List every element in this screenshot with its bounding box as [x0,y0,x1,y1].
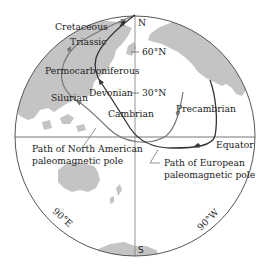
australia-landmass [58,162,100,192]
north-pole-label: N [138,17,146,28]
meridian-90w-label: 90°W [195,206,221,232]
island-small-2 [76,124,86,132]
period-label-cambrian: Cambrian [108,108,154,119]
north-america-landmass [148,18,250,96]
period-label-permocarboniferous: Permocarboniferous [45,65,140,76]
european-path-label-line2: paleomagnetic pole [164,169,255,180]
south-pole-label: S [138,245,144,255]
north-american-path-label-line2: paleomagnetic pole [32,155,123,166]
latitude-30n-label: 30°N [142,87,166,98]
european-arrow-2 [100,81,102,84]
latitude-60n-label: 60°N [142,46,166,57]
european-path-label-line1: Path of European [164,157,245,168]
period-label-silurian: Silurian [51,92,88,103]
antarctica-landmass [86,242,162,266]
european-leader-line [150,150,160,163]
equator-label: Equator [216,139,254,150]
paleomagnetic-pole-diagram: N S 60°N 30°N Equator Cretaceous Triassi… [0,0,270,269]
period-label-cretaceous: Cretaceous [55,21,108,32]
period-label-precambrian: Precambrian [176,103,236,114]
japan-island [126,42,136,56]
landmasses [15,18,250,266]
period-label-triassic: Triassic [70,36,106,47]
period-label-devonian: Devonian [89,87,133,98]
north-american-path-label-line1: Path of North American [32,143,143,154]
southeast-asia-island [60,114,74,124]
new-zealand-landmass [110,184,122,204]
island-small-1 [42,120,52,130]
